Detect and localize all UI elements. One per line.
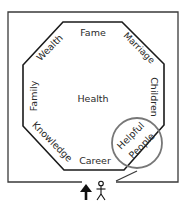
area-label-family: Family xyxy=(28,80,39,111)
area-label-marriage: Marriage xyxy=(122,30,158,66)
area-label-health: Health xyxy=(77,93,108,104)
door-swing-line xyxy=(116,171,137,181)
area-label-fame: Fame xyxy=(80,27,106,38)
area-label-career: Career xyxy=(79,155,111,166)
up-arrow-icon xyxy=(80,184,92,200)
area-label-children: Children xyxy=(149,77,160,117)
person-icon xyxy=(97,181,106,200)
bagua-diagram: Fame Wealth Marriage Family Health Child… xyxy=(0,0,184,208)
